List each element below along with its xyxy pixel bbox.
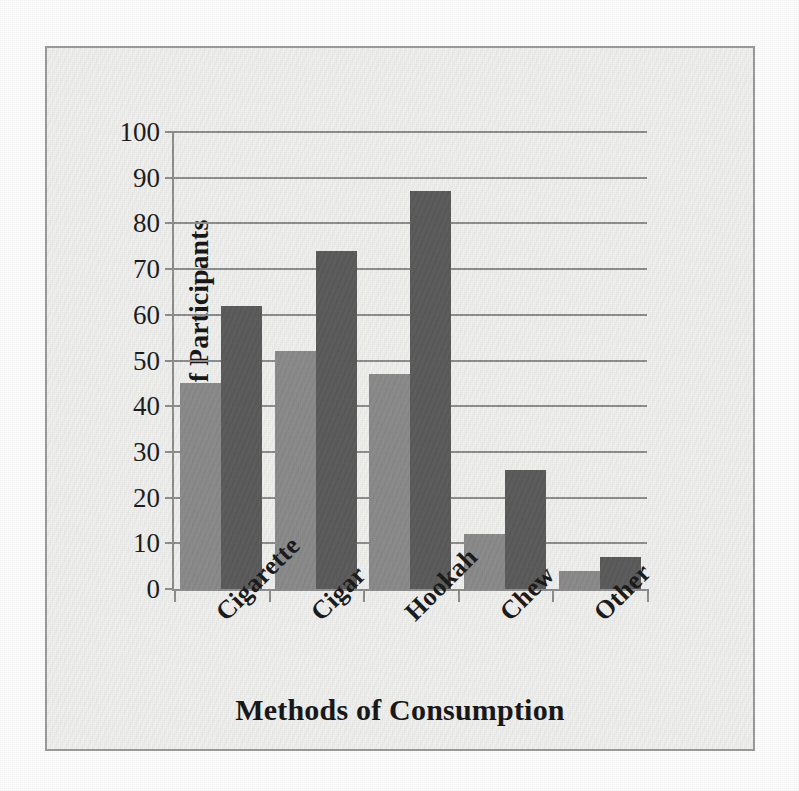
- bar[interactable]: [559, 571, 600, 589]
- bar[interactable]: [410, 191, 451, 589]
- y-axis-tick: [165, 177, 174, 179]
- y-axis-tick: [165, 360, 174, 362]
- y-axis-tick-label: 60: [133, 299, 160, 330]
- x-axis-tick: [269, 591, 271, 602]
- bar-group: [363, 132, 458, 589]
- y-axis-tick-label: 80: [133, 208, 160, 239]
- x-axis-tick: [458, 591, 460, 602]
- bar-group: [269, 132, 364, 589]
- bar[interactable]: [180, 383, 221, 589]
- y-axis-tick: [165, 405, 174, 407]
- x-axis-tick: [552, 591, 554, 602]
- y-axis-tick-label: 50: [133, 345, 160, 376]
- plot-area: 0102030405060708090100 CigaretteCigarHoo…: [174, 132, 647, 589]
- bar[interactable]: [369, 374, 410, 589]
- y-axis-tick: [165, 268, 174, 270]
- y-axis-tick-label: 20: [133, 482, 160, 513]
- y-axis-tick: [165, 451, 174, 453]
- y-axis-tick-label: 30: [133, 436, 160, 467]
- y-axis-tick-label: 100: [120, 117, 161, 148]
- y-axis-tick-label: 10: [133, 528, 160, 559]
- x-axis-tick: [174, 591, 176, 602]
- y-axis-tick-label: 70: [133, 254, 160, 285]
- bar[interactable]: [316, 251, 357, 589]
- y-axis-tick: [165, 222, 174, 224]
- x-axis-tick: [647, 591, 649, 602]
- bar-group: [552, 132, 647, 589]
- x-axis-tick: [363, 591, 365, 602]
- y-axis-tick-label: 40: [133, 391, 160, 422]
- y-axis-tick-label: 0: [147, 574, 161, 605]
- y-axis-tick-label: 90: [133, 162, 160, 193]
- bar-group: [174, 132, 269, 589]
- bar-group: [458, 132, 553, 589]
- y-axis-tick: [165, 497, 174, 499]
- y-axis-tick: [165, 542, 174, 544]
- y-axis-tick: [165, 314, 174, 316]
- x-axis-title: Methods of Consumption: [47, 693, 753, 727]
- y-axis-tick: [165, 131, 174, 133]
- chart-figure-frame: Number of Participants 01020304050607080…: [45, 46, 755, 751]
- bars-layer: [174, 132, 647, 589]
- bar[interactable]: [221, 306, 262, 589]
